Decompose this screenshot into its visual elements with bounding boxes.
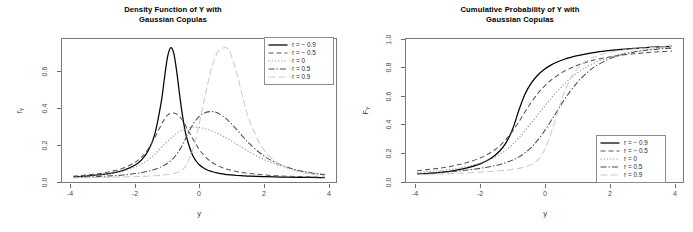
legend-label: r = 0.9 (292, 73, 310, 81)
ytick-mark (401, 67, 405, 68)
xtick-mark (264, 184, 265, 188)
ytick-label: 0.6 (384, 86, 393, 108)
legend-line-swatch (268, 57, 288, 65)
ytick-label: 0.6 (40, 61, 49, 83)
panel-density-title-line2: Gaussian Copulas (0, 15, 346, 25)
legend-item: r = 0.5 (268, 65, 329, 73)
series-line (73, 127, 325, 177)
legend-line-swatch (268, 65, 288, 73)
ytick-mark (401, 182, 405, 183)
legend-label: r = − 0.5 (624, 147, 648, 155)
ytick-mark (401, 153, 405, 154)
legend-label: r = − 0.9 (292, 41, 316, 49)
ytick-label: 0.0 (384, 172, 393, 194)
ytick-label: 0.4 (384, 114, 393, 136)
ytick-mark (57, 71, 61, 72)
legend-item: r = − 0.9 (268, 41, 329, 49)
xtick-label: -4 (403, 190, 427, 197)
xtick-label: 0 (187, 190, 211, 197)
xtick-mark (135, 184, 136, 188)
legend-label: r = 0 (624, 155, 637, 163)
legend-label: r = − 0.5 (292, 49, 316, 57)
xtick-mark (610, 184, 611, 188)
legend-line-swatch (268, 73, 288, 81)
legend-line-swatch (600, 163, 620, 171)
yaxis-title-sub: Y (19, 108, 25, 112)
figure-container: Density Function of Y with Gaussian Copu… (0, 0, 693, 232)
yaxis-title-sub: Y (364, 106, 370, 110)
legend-line-swatch (600, 147, 620, 155)
legend-line-swatch (600, 171, 620, 179)
ytick-label: 0.0 (40, 172, 49, 194)
xtick-label: 2 (252, 190, 276, 197)
legend-label: r = 0.5 (292, 65, 310, 73)
xtick-mark (329, 184, 330, 188)
xtick-label: -2 (123, 190, 147, 197)
yaxis-title-base: F (361, 110, 370, 115)
xtick-mark (415, 184, 416, 188)
ytick-mark (401, 124, 405, 125)
legend-density: r = − 0.9r = − 0.5r = 0r = 0.5r = 0.9 (264, 37, 334, 85)
yaxis-title: fY (15, 108, 24, 114)
ytick-label: 0.2 (384, 143, 393, 165)
xaxis-title: y (515, 209, 575, 218)
xtick-mark (675, 184, 676, 188)
xtick-mark (70, 184, 71, 188)
xtick-label: 0 (533, 190, 557, 197)
legend-line-swatch (600, 139, 620, 147)
yaxis-title-base: f (15, 111, 24, 113)
xtick-mark (199, 184, 200, 188)
legend-line-swatch (268, 49, 288, 57)
ytick-label: 0.8 (384, 57, 393, 79)
panel-density: Density Function of Y with Gaussian Copu… (0, 0, 346, 232)
ytick-mark (57, 145, 61, 146)
legend-cdf: r = − 0.9r = − 0.5r = 0r = 0.5r = 0.9 (596, 135, 666, 183)
legend-label: r = − 0.9 (624, 139, 648, 147)
legend-item: r = − 0.5 (268, 49, 329, 57)
legend-item: r = 0 (268, 57, 329, 65)
xtick-mark (480, 184, 481, 188)
panel-density-title-line1: Density Function of Y with (0, 5, 346, 15)
xtick-label: -4 (58, 190, 82, 197)
xtick-label: 4 (663, 190, 687, 197)
legend-label: r = 0.9 (624, 171, 642, 179)
xaxis-title: y (169, 209, 229, 218)
panel-cdf-title-line2: Gaussian Copulas (347, 15, 693, 25)
legend-item: r = 0.5 (600, 163, 661, 171)
ytick-label: 1.0 (384, 29, 393, 51)
panel-cdf-title: Cumulative Probability of Y with Gaussia… (347, 5, 693, 25)
ytick-label: 0.2 (40, 135, 49, 157)
legend-item: r = − 0.9 (600, 139, 661, 147)
xtick-label: -2 (468, 190, 492, 197)
ytick-label: 0.4 (40, 98, 49, 120)
legend-line-swatch (600, 155, 620, 163)
yaxis-title: FY (361, 106, 370, 114)
legend-label: r = 0 (292, 57, 305, 65)
ytick-mark (401, 96, 405, 97)
ytick-mark (401, 39, 405, 40)
ytick-mark (57, 108, 61, 109)
xtick-mark (545, 184, 546, 188)
legend-item: r = 0.9 (600, 171, 661, 179)
legend-item: r = − 0.5 (600, 147, 661, 155)
legend-item: r = 0 (600, 155, 661, 163)
ytick-mark (57, 182, 61, 183)
legend-item: r = 0.9 (268, 73, 329, 81)
panel-density-title: Density Function of Y with Gaussian Copu… (0, 5, 346, 25)
legend-label: r = 0.5 (624, 163, 642, 171)
xtick-label: 2 (598, 190, 622, 197)
panel-cdf: Cumulative Probability of Y with Gaussia… (347, 0, 693, 232)
xtick-label: 4 (317, 190, 341, 197)
panel-cdf-title-line1: Cumulative Probability of Y with (347, 5, 693, 15)
legend-line-swatch (268, 41, 288, 49)
